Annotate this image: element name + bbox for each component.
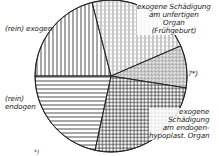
footnote-marker: *) [34, 148, 39, 155]
label-rein-exogen: (rein) exogen [5, 25, 52, 33]
label-rein-endogen: (rein) endogen [5, 95, 36, 111]
label-unfertiges-organ: exogene Schädigung am unfertigen Organ (… [137, 3, 211, 35]
label-hypoplast-organ: exogene Schädigung am endogen- hypoplast… [149, 108, 209, 140]
label-question: ?*) [188, 70, 198, 78]
